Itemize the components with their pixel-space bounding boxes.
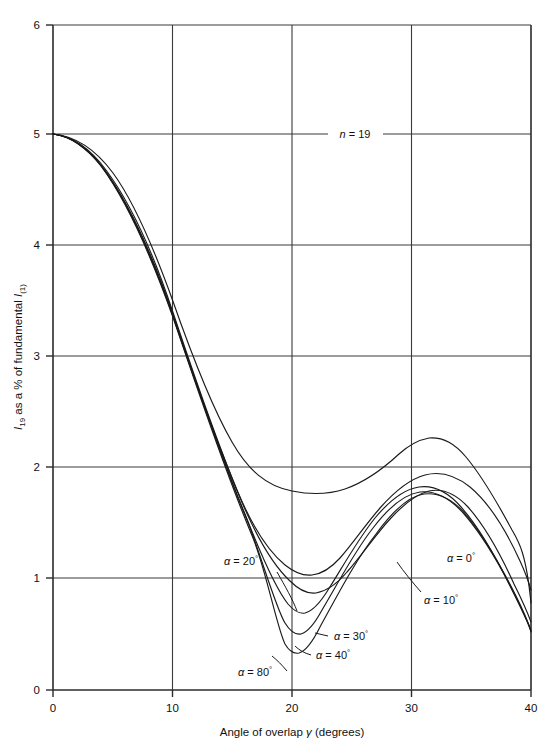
- y-axis-title-sub2: (1): [18, 284, 27, 294]
- leader-alpha-30: [315, 633, 328, 636]
- series-label-alpha-30-degree: °: [365, 629, 368, 638]
- y-tick-label-2: 2: [34, 461, 40, 473]
- y-axis-title-mid: as a % of fundamental: [12, 297, 24, 418]
- chart-container: 6 5 4 3 2 1 0 0 10 20 30 40 Angle of ove…: [0, 0, 555, 747]
- series-label-alpha-40-degree: °: [347, 648, 350, 657]
- series-label-alpha-0-degree: °: [472, 551, 475, 560]
- series-label-alpha-10: α = 10°: [424, 593, 458, 606]
- series-label-alpha-30-value: = 30: [340, 630, 365, 642]
- series-label-alpha-20-value: = 20: [230, 555, 255, 567]
- x-axis-title-post: (degrees): [312, 726, 365, 738]
- series-label-alpha-40-value: = 40: [322, 649, 347, 661]
- x-tick-labels: 0 10 20 30 40: [50, 702, 538, 714]
- series-label-alpha-0: α = 0°: [447, 551, 475, 564]
- series-label-alpha-20-degree: °: [255, 554, 258, 563]
- leader-alpha-10: [397, 562, 421, 592]
- x-tick-marks: [53, 690, 531, 697]
- annotation-n-text: n = 19: [340, 128, 371, 140]
- x-tick-label-10: 10: [166, 702, 179, 714]
- y-tick-marks: [46, 25, 53, 690]
- series-label-alpha-80-value: = 80: [244, 666, 269, 678]
- y-tick-label-3: 3: [34, 350, 40, 362]
- y-tick-label-5: 5: [34, 128, 40, 140]
- y-tick-labels: 6 5 4 3 2 1 0: [34, 19, 41, 696]
- series-labels: α = 0° α = 10° α = 20° α = 30° α = 40° α…: [224, 551, 475, 678]
- y-axis-title: I19 as a % of fundamental I(1): [12, 284, 27, 430]
- series-label-alpha-80-degree: °: [269, 665, 272, 674]
- y-tick-label-1: 1: [34, 572, 40, 584]
- x-tick-label-30: 30: [405, 702, 418, 714]
- annotation-n-value: = 19: [346, 128, 371, 140]
- x-tick-label-40: 40: [525, 702, 538, 714]
- series-label-alpha-80: α = 80°: [238, 665, 272, 678]
- y-tick-label-4: 4: [34, 239, 41, 251]
- annotation-n: n = 19: [328, 123, 383, 145]
- series-label-alpha-40: α = 40°: [316, 648, 350, 661]
- leader-alpha-80: [272, 656, 287, 671]
- series-label-alpha-20: α = 20°: [224, 554, 258, 567]
- x-axis-title: Angle of overlap γ (degrees): [220, 726, 365, 738]
- x-tick-label-20: 20: [286, 702, 299, 714]
- line-chart: 6 5 4 3 2 1 0 0 10 20 30 40 Angle of ove…: [0, 0, 555, 747]
- series-label-alpha-30: α = 30°: [334, 629, 368, 642]
- y-tick-label-6: 6: [34, 19, 40, 31]
- y-tick-label-0: 0: [34, 684, 40, 696]
- series-label-alpha-0-value: = 0: [453, 552, 472, 564]
- series-label-alpha-10-value: = 10: [430, 594, 455, 606]
- x-tick-label-0: 0: [50, 702, 56, 714]
- series-label-alpha-10-degree: °: [455, 593, 458, 602]
- x-axis-title-pre: Angle of overlap: [220, 726, 306, 738]
